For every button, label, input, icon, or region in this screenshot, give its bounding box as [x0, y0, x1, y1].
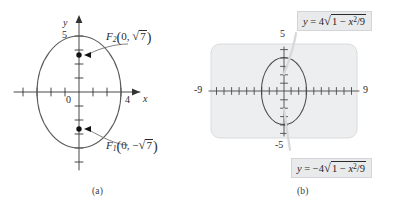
- y-axis-arrow: [76, 15, 83, 23]
- caption-a: (a): [92, 186, 103, 196]
- x-axis-arrow: [132, 89, 140, 96]
- window-label-xmin: -9: [194, 84, 202, 95]
- panel-b: -9 9 5 -5: [195, 0, 395, 210]
- panel-a: y x 5 0 4 F2(0, 7) F1(0, −7): [0, 0, 200, 210]
- panel-b-graph: [195, 0, 395, 210]
- origin-label: 0: [66, 94, 71, 105]
- leader-arrow-lower: [84, 126, 91, 132]
- leader-arrow-upper: [84, 52, 91, 58]
- equation-box-lower: y = −41 − x2/9: [291, 158, 372, 178]
- focus-point-upper: [76, 52, 81, 57]
- x-axis-label: x: [143, 93, 147, 104]
- focus-label-upper: F2(0, 7): [106, 30, 151, 45]
- window-label-xmax: 9: [363, 84, 368, 95]
- focus-point-lower: [76, 126, 81, 131]
- x-tick-label-4: 4: [125, 94, 130, 105]
- window-label-ymax: 5: [280, 28, 285, 39]
- panel-a-graph: [0, 0, 200, 210]
- focus-label-lower: F1(0, −7): [106, 139, 158, 154]
- y-tick-label-5: 5: [62, 29, 67, 40]
- caption-b: (b): [297, 186, 309, 196]
- window-label-ymin: -5: [275, 139, 283, 150]
- ellipse-figure: y x 5 0 4 F2(0, 7) F1(0, −7): [0, 0, 395, 210]
- equation-box-upper: y = 41 − x2/9: [297, 11, 372, 31]
- y-axis-label: y: [63, 17, 67, 28]
